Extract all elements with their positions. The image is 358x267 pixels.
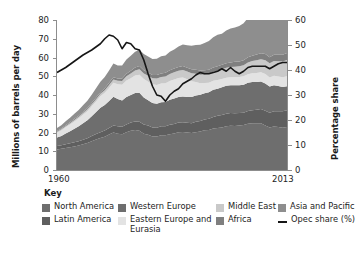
legend-item-label: Opec share (%) [291, 215, 355, 225]
legend-opec-share[interactable]: Opec share (%) [278, 215, 358, 234]
legend-item-label: Africa [228, 215, 252, 225]
legend-color-swatch [216, 204, 224, 212]
y-left-tick-label: 20 [29, 128, 49, 138]
legend-item-label: North America [54, 202, 114, 212]
legend-item-label: Latin America [54, 215, 111, 225]
legend-color-swatch [118, 217, 126, 225]
y-left-tick-mark [53, 170, 57, 171]
y-right-tick-mark [288, 70, 292, 71]
legend-title: Key [44, 188, 334, 198]
y-right-tick-label: 10 [295, 140, 315, 150]
y-axis-right-title: Percentage share [330, 77, 340, 160]
x-tick-start: 1960 [48, 174, 70, 184]
y-left-tick-label: 10 [29, 146, 49, 156]
y-left-tick-label: 0 [29, 165, 49, 175]
y-right-tick-mark [288, 45, 292, 46]
plot-area [57, 20, 287, 170]
y-right-tick-label: 30 [295, 90, 315, 100]
legend-eastern-europe-eurasia[interactable]: Eastern Europe and Eurasia [118, 215, 216, 234]
y-left-tick-mark [53, 133, 57, 134]
legend-latin-america[interactable]: Latin America [42, 215, 118, 234]
y-left-tick-mark [53, 95, 57, 96]
y-axis-left-title: Millions of barrels per day [11, 45, 21, 168]
legend-line-swatch [278, 217, 287, 225]
legend-items: North AmericaWestern EuropeMiddle EastAs… [42, 202, 334, 234]
y-right-tick-mark [288, 145, 292, 146]
y-right-tick-label: 40 [295, 65, 315, 75]
y-left-tick-label: 40 [29, 90, 49, 100]
y-right-tick-label: 50 [295, 40, 315, 50]
y-right-tick-mark [288, 95, 292, 96]
y-left-tick-label: 30 [29, 109, 49, 119]
legend-color-swatch [42, 204, 50, 212]
y-right-tick-mark [288, 170, 292, 171]
y-left-tick-label: 80 [29, 15, 49, 25]
x-tick-end: 2013 [272, 174, 294, 184]
legend-item-label: Asia and Pacific [290, 202, 355, 212]
y-left-tick-label: 70 [29, 34, 49, 44]
legend-north-america[interactable]: North America [42, 202, 118, 212]
plot-svg [57, 20, 287, 170]
legend-western-europe[interactable]: Western Europe [118, 202, 216, 212]
y-left-tick-mark [53, 76, 57, 77]
legend-item-label: Eastern Europe and Eurasia [130, 215, 216, 234]
y-left-tick-label: 60 [29, 53, 49, 63]
x-axis [57, 170, 288, 171]
y-right-tick-label: 20 [295, 115, 315, 125]
stacked-areas [57, 20, 287, 170]
legend-color-swatch [42, 217, 50, 225]
y-left-tick-mark [53, 114, 57, 115]
y-right-tick-label: 60 [295, 15, 315, 25]
legend-middle-east[interactable]: Middle East [216, 202, 278, 212]
legend-africa[interactable]: Africa [216, 215, 278, 234]
y-right-tick-label: 0 [295, 165, 315, 175]
y-left-tick-mark [53, 39, 57, 40]
y-right-tick-mark [288, 120, 292, 121]
y-left-tick-mark [53, 58, 57, 59]
legend-color-swatch [216, 217, 224, 225]
legend-item-label: Middle East [228, 202, 276, 212]
legend-asia-pacific[interactable]: Asia and Pacific [278, 202, 358, 212]
legend-color-swatch [118, 204, 126, 212]
legend-item-label: Western Europe [130, 202, 196, 212]
y-left-tick-mark [53, 151, 57, 152]
y-right-tick-mark [288, 20, 292, 21]
legend: Key North AmericaWestern EuropeMiddle Ea… [42, 188, 334, 234]
y-left-tick-label: 50 [29, 71, 49, 81]
legend-color-swatch [278, 204, 286, 212]
y-left-tick-mark [53, 20, 57, 21]
